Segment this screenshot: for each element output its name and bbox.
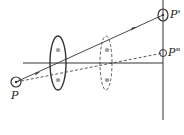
lens-mark-icon: ⊗ — [104, 46, 109, 53]
point-p-prime-dot — [162, 14, 164, 16]
ray-dashed — [16, 53, 163, 82]
label-p-double-prime: P" — [167, 46, 180, 59]
lens-mark-icon: ⊗ — [55, 46, 60, 53]
lens-mark-icon: ⊗ — [104, 76, 109, 83]
optics-diagram: ⊗ ⊗ ⊗ ⊗ P P' P" — [0, 0, 184, 135]
label-p-prime: P' — [169, 8, 180, 21]
ray-solid — [16, 15, 163, 82]
lens-mark-icon: ⊗ — [55, 76, 60, 83]
point-p-dot — [15, 81, 17, 83]
label-p: P — [10, 89, 19, 102]
